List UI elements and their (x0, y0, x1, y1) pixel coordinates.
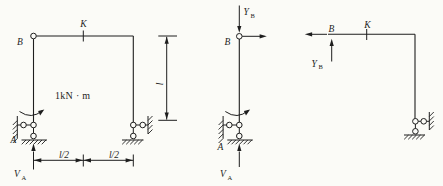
support-roller-icon (237, 133, 243, 139)
support-A (219, 116, 253, 144)
right-arrowhead-icon (126, 158, 133, 162)
force-YB-arrow (330, 39, 334, 62)
force-YB-arrow (237, 6, 241, 33)
force-XB-arrow (305, 32, 327, 36)
up-arrowhead-icon (31, 144, 35, 152)
support-roller-icon (31, 122, 37, 128)
left-arrowhead-icon (34, 158, 41, 162)
support-wall-hatch (429, 112, 434, 130)
reaction-VA-subscript: A (228, 174, 233, 181)
support-ground-hatch (122, 140, 142, 144)
hinge-B-icon (31, 33, 37, 39)
support-ground-hatch (404, 135, 424, 139)
figure-canvas: l l/2 l/2 B K 1kN · m A V A (0, 0, 443, 186)
node-A-label: A (10, 135, 17, 145)
left-arrowhead-icon (84, 158, 91, 162)
node-B-label: B (225, 37, 231, 47)
support-roller-icon (413, 129, 419, 135)
up-arrowhead-icon (165, 37, 169, 44)
node-B-label: B (17, 37, 23, 47)
support-ground-hatch (22, 140, 46, 144)
beam-freebody-diagram: B K Y B (305, 20, 434, 140)
force-YB-subscript: B (251, 12, 256, 19)
dim-span-right-label: l/2 (109, 150, 119, 160)
dim-span-left-label: l/2 (59, 150, 69, 160)
support-wall-hatch (148, 116, 153, 134)
support-roller-icon (21, 122, 27, 128)
moment-arrow (20, 110, 45, 116)
frame-load-diagram: l l/2 l/2 B K 1kN · m A V A (10, 19, 177, 181)
support-roller-icon (413, 119, 419, 125)
force-YB-label: Y (312, 59, 319, 69)
support-roller-icon (140, 122, 146, 128)
support-roller-icon (227, 122, 233, 128)
force-YB-label: Y (244, 7, 251, 17)
dimension-span: l/2 l/2 (34, 150, 134, 167)
moment-arrow (225, 110, 250, 116)
up-arrowhead-icon (237, 144, 241, 152)
support-roller-icon (31, 133, 37, 139)
support-roller-icon (237, 122, 243, 128)
support-wall-hatch (219, 121, 224, 144)
support-A (13, 116, 47, 144)
dimension-height: l (155, 36, 178, 120)
dim-height-label: l (155, 82, 165, 85)
node-K-label: K (363, 20, 371, 30)
reaction-VA-label: V (220, 169, 227, 179)
reaction-VA-arrow (237, 144, 241, 168)
right-arrowhead-icon (260, 34, 267, 38)
up-arrowhead-icon (330, 39, 334, 46)
moment-arrowhead-icon (38, 110, 44, 116)
support-roller-icon (421, 119, 427, 125)
node-B-label: B (329, 24, 335, 34)
support-ground-hatch (228, 140, 252, 144)
moment-load-label: 1kN · m (55, 90, 90, 101)
support-right-roller (404, 112, 434, 139)
force-XB-arrow (242, 34, 267, 38)
node-K-label: K (79, 19, 87, 29)
column-freebody-diagram: Y B B A V A (217, 6, 267, 181)
hinge-B-icon (237, 34, 243, 40)
node-A-label: A (217, 142, 224, 152)
support-roller-icon (131, 133, 137, 139)
support-roller-icon (131, 122, 137, 128)
support-right-roller (122, 116, 153, 144)
moment-arrowhead-icon (244, 110, 250, 116)
down-arrowhead-icon (165, 113, 169, 120)
structural-diagram-svg: l l/2 l/2 B K 1kN · m A V A (0, 0, 443, 186)
force-YB-subscript: B (319, 63, 324, 70)
reaction-VA-label: V (14, 169, 21, 179)
right-arrowhead-icon (76, 158, 83, 162)
left-arrowhead-icon (305, 32, 312, 36)
reaction-VA-subscript: A (22, 174, 27, 181)
down-arrowhead-icon (237, 26, 241, 33)
